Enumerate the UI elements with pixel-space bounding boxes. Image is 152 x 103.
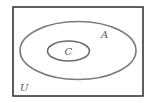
set-c-label: C [65,46,73,57]
universe-label: U [20,82,29,93]
venn-diagram: A C U [0,0,152,103]
universe-rectangle [13,7,143,96]
set-a-label: A [100,29,108,40]
